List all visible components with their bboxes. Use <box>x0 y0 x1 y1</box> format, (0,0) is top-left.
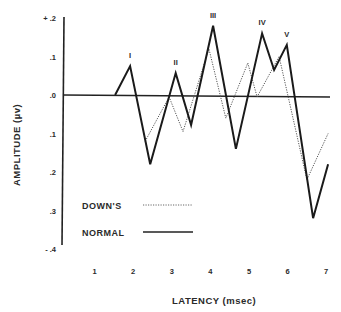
y-axis-label: AMPLITUDE (µv) <box>11 104 22 186</box>
series-downs-line <box>145 49 328 180</box>
y-tick-label: .0 <box>50 91 56 100</box>
peak-label: II <box>174 58 178 67</box>
x-tick-label: 1 <box>93 267 97 276</box>
x-tick-label: 5 <box>247 267 251 276</box>
y-tick-label: + .2 <box>43 14 56 23</box>
series-normal-line <box>115 26 328 219</box>
y-tick-label: .1 <box>50 130 56 139</box>
x-tick-label: 3 <box>170 267 174 276</box>
y-tick-labels: + .2.1.0.1.2.3- .4 <box>43 14 57 254</box>
peak-label: III <box>210 11 216 20</box>
waveform-chart: + .2.1.0.1.2.3- .4 1234567 AMPLITUDE (µv… <box>0 0 341 312</box>
peak-label: V <box>284 30 289 39</box>
series-lines <box>115 26 328 219</box>
y-axis <box>62 17 64 245</box>
y-tick-label: .2 <box>50 168 56 177</box>
x-tick-label: 2 <box>131 267 135 276</box>
x-tick-label: 7 <box>324 267 328 276</box>
x-tick-label: 6 <box>286 267 290 276</box>
peak-label: I <box>129 51 131 60</box>
legend: DOWN'S NORMAL <box>82 201 193 238</box>
y-tick-label: .3 <box>50 207 56 216</box>
y-tick-label: .1 <box>50 53 56 62</box>
x-tick-labels: 1234567 <box>93 267 329 276</box>
x-tick-label: 4 <box>208 267 213 276</box>
legend-downs-label: DOWN'S <box>82 201 122 211</box>
peak-label: IV <box>259 18 266 27</box>
x-axis-label: LATENCY (msec) <box>172 295 256 306</box>
legend-normal-label: NORMAL <box>82 228 125 238</box>
y-tick-label: - .4 <box>45 245 57 254</box>
